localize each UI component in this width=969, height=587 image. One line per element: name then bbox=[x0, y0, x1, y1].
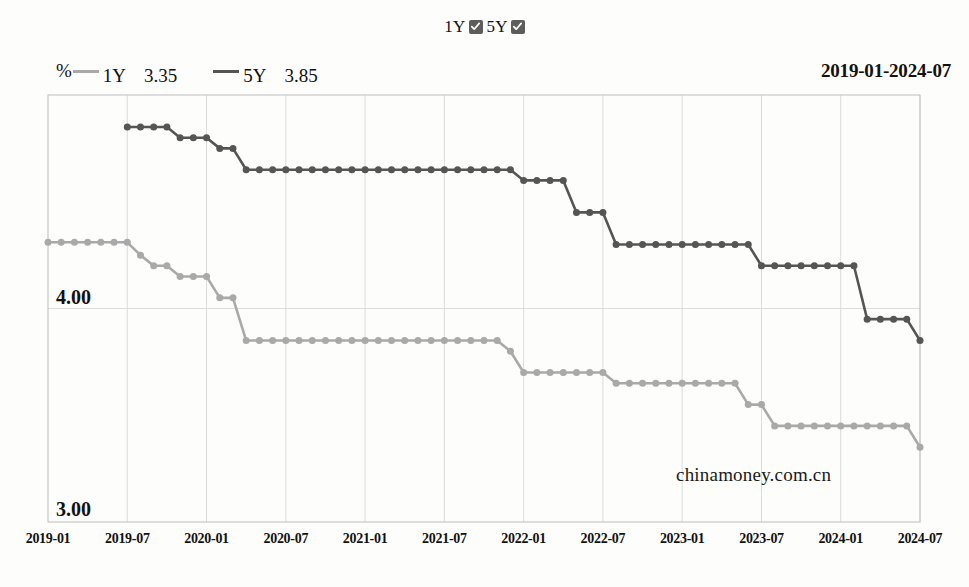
data-point bbox=[758, 401, 765, 408]
data-point bbox=[229, 145, 236, 152]
chart-page: 1Y 5Y % 1Y 3.35 5Y 3. bbox=[0, 0, 969, 587]
x-axis-tick: 2022-07 bbox=[581, 531, 626, 547]
data-point bbox=[137, 124, 144, 131]
data-point bbox=[441, 337, 448, 344]
data-point bbox=[362, 166, 369, 173]
data-point bbox=[732, 241, 739, 248]
data-point bbox=[864, 422, 871, 429]
data-point bbox=[692, 380, 699, 387]
data-point bbox=[229, 294, 236, 301]
data-point bbox=[745, 241, 752, 248]
data-point bbox=[203, 134, 210, 141]
data-point bbox=[256, 166, 263, 173]
data-point bbox=[335, 337, 342, 344]
data-point bbox=[309, 337, 316, 344]
data-point bbox=[586, 369, 593, 376]
data-point bbox=[507, 348, 514, 355]
data-point bbox=[282, 166, 289, 173]
data-point bbox=[243, 337, 250, 344]
data-point bbox=[864, 316, 871, 323]
data-point bbox=[599, 209, 606, 216]
data-point bbox=[560, 369, 567, 376]
data-point bbox=[613, 380, 620, 387]
data-point bbox=[335, 166, 342, 173]
data-point bbox=[798, 262, 805, 269]
x-axis-tick: 2020-07 bbox=[264, 531, 309, 547]
data-point bbox=[507, 166, 514, 173]
data-point bbox=[216, 294, 223, 301]
chart-gridlines bbox=[48, 95, 920, 522]
data-point bbox=[45, 239, 52, 246]
data-point bbox=[547, 369, 554, 376]
data-point bbox=[837, 262, 844, 269]
data-point bbox=[811, 262, 818, 269]
data-point bbox=[917, 337, 924, 344]
data-point bbox=[652, 241, 659, 248]
data-point bbox=[111, 239, 118, 246]
data-point bbox=[163, 262, 170, 269]
data-point bbox=[467, 166, 474, 173]
data-point bbox=[362, 337, 369, 344]
data-point bbox=[348, 166, 355, 173]
x-axis-tick: 2023-07 bbox=[739, 531, 784, 547]
data-point bbox=[269, 166, 276, 173]
x-axis-tick: 2019-01 bbox=[26, 531, 71, 547]
data-point bbox=[547, 177, 554, 184]
data-point bbox=[573, 369, 580, 376]
data-point bbox=[837, 422, 844, 429]
data-point bbox=[533, 369, 540, 376]
data-point bbox=[454, 166, 461, 173]
data-point bbox=[177, 273, 184, 280]
data-point bbox=[890, 422, 897, 429]
data-point bbox=[613, 241, 620, 248]
data-point bbox=[850, 422, 857, 429]
x-axis-tick: 2020-01 bbox=[184, 531, 229, 547]
data-point bbox=[586, 209, 593, 216]
data-point bbox=[877, 422, 884, 429]
data-point bbox=[917, 444, 924, 451]
data-point bbox=[177, 134, 184, 141]
data-point bbox=[520, 369, 527, 376]
x-axis-tick: 2024-01 bbox=[818, 531, 863, 547]
data-point bbox=[533, 177, 540, 184]
data-point bbox=[599, 369, 606, 376]
data-point bbox=[771, 422, 778, 429]
data-point bbox=[401, 166, 408, 173]
data-point bbox=[309, 166, 316, 173]
data-point bbox=[58, 239, 65, 246]
data-point bbox=[784, 262, 791, 269]
data-point bbox=[97, 239, 104, 246]
data-point bbox=[798, 422, 805, 429]
data-point bbox=[877, 316, 884, 323]
data-point bbox=[573, 209, 580, 216]
data-point bbox=[137, 252, 144, 259]
series-1y bbox=[45, 239, 924, 451]
data-point bbox=[639, 241, 646, 248]
data-point bbox=[692, 241, 699, 248]
data-point bbox=[890, 316, 897, 323]
data-point bbox=[705, 241, 712, 248]
data-point bbox=[784, 422, 791, 429]
data-point bbox=[375, 337, 382, 344]
data-point bbox=[771, 262, 778, 269]
data-point bbox=[665, 241, 672, 248]
data-point bbox=[216, 145, 223, 152]
data-point bbox=[124, 124, 131, 131]
data-point bbox=[560, 177, 567, 184]
data-point bbox=[388, 337, 395, 344]
data-point bbox=[256, 337, 263, 344]
data-point bbox=[850, 262, 857, 269]
data-point bbox=[454, 337, 461, 344]
data-point bbox=[481, 337, 488, 344]
data-point bbox=[824, 262, 831, 269]
data-point bbox=[732, 380, 739, 387]
data-point bbox=[718, 380, 725, 387]
data-point bbox=[441, 166, 448, 173]
data-point bbox=[348, 337, 355, 344]
data-point bbox=[903, 316, 910, 323]
chart-series-layer bbox=[45, 124, 924, 451]
x-axis-tick: 2019-07 bbox=[105, 531, 150, 547]
data-point bbox=[520, 177, 527, 184]
data-point bbox=[282, 337, 289, 344]
data-point bbox=[243, 166, 250, 173]
